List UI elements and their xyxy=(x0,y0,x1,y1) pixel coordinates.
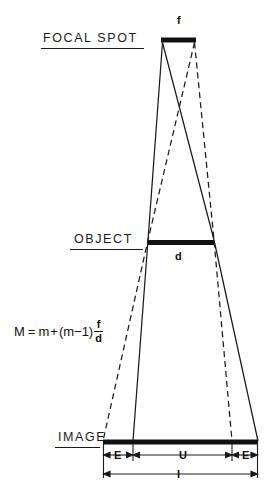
formula-lhs: M xyxy=(14,324,25,339)
magnification-formula: M = m + (m−1) f d xyxy=(14,319,103,344)
plane-label-object: OBJECT xyxy=(74,232,133,246)
dimension-label-penumbra-right: E xyxy=(242,449,249,461)
formula-fraction: f d xyxy=(94,319,103,344)
object-label-underline xyxy=(70,249,143,250)
plane-label-image: IMAGE xyxy=(58,430,106,444)
formula-plus: + xyxy=(50,324,58,339)
plane-label-focal-spot: FOCAL SPOT xyxy=(43,31,138,45)
symbol-object-size: d xyxy=(175,250,182,262)
dimension-row-i xyxy=(104,471,258,476)
symbol-focal-spot-size: f xyxy=(177,14,181,26)
formula-term2: (m−1) xyxy=(59,324,93,339)
image-label-underline xyxy=(55,447,100,448)
focal-spot-label-underline xyxy=(41,48,144,49)
object-bar xyxy=(148,240,214,245)
dimension-label-penumbra-left: E xyxy=(114,449,121,461)
formula-numerator: f xyxy=(96,319,102,331)
formula-equals: = xyxy=(28,324,36,339)
image-plane-bar xyxy=(103,440,258,445)
dimension-label-total-image: I xyxy=(177,468,180,480)
formula-term1: m xyxy=(38,324,49,339)
focal-spot-bar xyxy=(161,38,196,43)
dimension-label-umbra: U xyxy=(179,449,187,461)
formula-denominator: d xyxy=(94,332,103,344)
diagram-canvas: FOCAL SPOT f OBJECT d IMAGE M = m + (m−1… xyxy=(0,0,280,499)
